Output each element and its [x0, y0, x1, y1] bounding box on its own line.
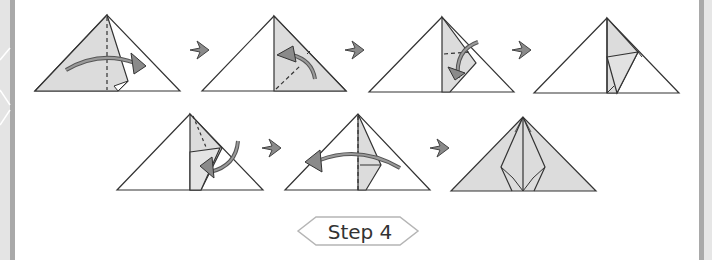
- next-arrow-icon: [345, 41, 364, 59]
- next-arrow-icon: [262, 139, 281, 157]
- frame-5: [117, 114, 263, 190]
- frame-6: [285, 114, 430, 190]
- left-band-pattern: [0, 48, 10, 125]
- next-arrow-icon: [190, 41, 209, 59]
- next-arrow-icon: [430, 139, 449, 157]
- next-arrow-icon: [512, 41, 531, 59]
- frame-2: [202, 16, 346, 91]
- frame-4: [534, 18, 679, 93]
- frame-1: [35, 15, 180, 91]
- frame-3: [369, 17, 514, 92]
- frame-7: [451, 117, 596, 191]
- step-badge-label: Step 4: [310, 218, 410, 246]
